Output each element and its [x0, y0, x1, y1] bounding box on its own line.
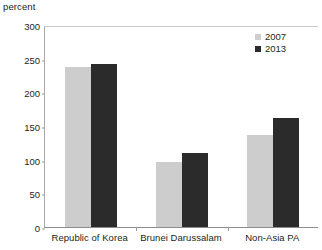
y-axis-tick-mark: [42, 195, 45, 196]
x-axis-category-label: Brunei Darussalam: [135, 232, 226, 244]
y-axis-tick-label: 0: [6, 224, 40, 234]
y-axis-tick-mark: [42, 161, 45, 162]
y-axis-tick-mark: [42, 128, 45, 129]
y-axis-tick-label: 150: [6, 123, 40, 133]
legend-label: 2013: [265, 43, 286, 54]
y-axis-tick-label: 100: [6, 157, 40, 167]
y-axis-unit-label: percent: [3, 1, 35, 13]
plot-area: 050100150200250300: [44, 26, 318, 228]
legend-label: 2007: [265, 31, 286, 42]
x-axis-tick-mark: [228, 227, 229, 231]
y-axis-tick-label: 200: [6, 89, 40, 99]
legend-swatch-icon: [255, 34, 261, 40]
y-axis-tick-mark: [42, 60, 45, 61]
y-axis-tick-label: 250: [6, 56, 40, 66]
bar-2007-1: [65, 67, 91, 227]
legend-swatch-icon: [255, 46, 261, 52]
bar-2013-1: [91, 64, 117, 227]
x-axis-tick-mark: [136, 227, 137, 231]
bar-2007-2: [156, 162, 182, 227]
legend-item: 2007: [255, 31, 286, 42]
y-axis-tick-mark: [42, 94, 45, 95]
x-axis-category-label: Non-Asia PA: [227, 232, 318, 244]
bar-2013-3: [273, 118, 299, 227]
y-axis-tick-label: 300: [6, 22, 40, 32]
bar-chart: percent 050100150200250300 20072013 Repu…: [0, 0, 322, 250]
chart-legend: 20072013: [255, 31, 286, 55]
y-axis-tick-mark: [42, 229, 45, 230]
legend-item: 2013: [255, 43, 286, 54]
x-axis-category-label: Republic of Korea: [44, 232, 135, 244]
y-axis-tick-label: 50: [6, 190, 40, 200]
bar-2007-3: [247, 135, 273, 227]
bar-2013-2: [182, 153, 208, 227]
